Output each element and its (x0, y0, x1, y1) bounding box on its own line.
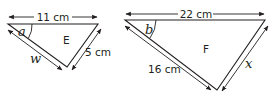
side-label-f-right: x (245, 56, 253, 71)
triangle-label-e: E (63, 34, 70, 46)
triangle-f: 22 cm 16 cm x b F (125, 8, 268, 91)
triangle-e: 11 cm w 5 cm a E (8, 11, 111, 70)
side-label-e-top: 11 cm (37, 11, 70, 23)
side-label-f-top: 22 cm (180, 8, 213, 20)
side-label-e-right: 5 cm (85, 46, 111, 58)
angle-label-b: b (145, 22, 153, 37)
dim-arrow-f-left (125, 26, 211, 90)
side-label-f-left: 16 cm (148, 63, 181, 75)
similar-triangles-diagram: 11 cm w 5 cm a E 22 cm 16 cm x b F (0, 0, 272, 92)
angle-arc-a (29, 24, 33, 38)
side-label-e-left: w (30, 51, 41, 66)
angle-label-a: a (18, 24, 26, 39)
triangle-label-f: F (203, 43, 209, 55)
